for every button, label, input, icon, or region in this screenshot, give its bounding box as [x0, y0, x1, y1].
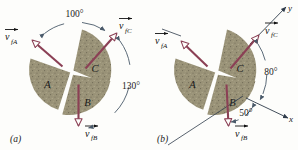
svg-text:fC: fC — [125, 27, 132, 35]
angle-label-100: 100° — [65, 9, 83, 19]
fragment-label-c: C — [91, 63, 99, 74]
vector-label-v-fC: v fC — [265, 23, 278, 39]
reference-line-upper-left — [162, 29, 181, 36]
vector-label-v-fB: v fB — [85, 126, 98, 142]
panel-b: A B C y x v fA v fC v fB — [155, 3, 293, 145]
angle-label-50: 50° — [239, 108, 253, 118]
vector-label-v-fA: v fA — [5, 30, 18, 46]
x-axis-label: x — [288, 114, 293, 124]
svg-text:fC: fC — [271, 31, 278, 39]
svg-text:v: v — [5, 31, 10, 42]
svg-text:fA: fA — [161, 42, 168, 50]
fragment-b-shape — [62, 75, 110, 115]
svg-text:v: v — [119, 20, 124, 31]
svg-text:v: v — [265, 25, 270, 36]
svg-text:v: v — [155, 35, 160, 46]
fragment-label-c: C — [236, 63, 244, 74]
svg-text:fA: fA — [11, 38, 18, 46]
fragment-label-a: A — [188, 79, 196, 90]
panel-b-caption: (b) — [157, 134, 168, 145]
fragment-label-a: A — [43, 79, 51, 90]
vector-label-v-fA: v fA — [155, 34, 168, 50]
vector-label-v-fB: v fB — [235, 126, 248, 142]
panel-a: A B C v fA v fC v fB 100° 130° (a) — [5, 9, 140, 145]
y-axis-label: y — [287, 3, 292, 13]
reference-line — [168, 96, 243, 145]
angle-arc-100 — [45, 22, 106, 33]
svg-text:fB: fB — [241, 134, 248, 142]
panel-a-caption: (a) — [10, 134, 21, 145]
vector-label-v-fC: v fC — [119, 19, 132, 35]
svg-text:v: v — [235, 128, 240, 139]
angle-label-80: 80° — [264, 67, 278, 77]
angle-label-130: 130° — [122, 81, 140, 91]
figure-container: A B C v fA v fC v fB 100° 130° (a) — [0, 0, 298, 150]
figure-svg: A B C v fA v fC v fB 100° 130° (a) — [0, 0, 298, 150]
svg-text:v: v — [85, 128, 90, 139]
fragment-label-b: B — [84, 97, 91, 108]
svg-text:fB: fB — [91, 134, 98, 142]
